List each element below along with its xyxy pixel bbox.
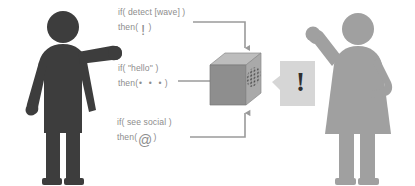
rule-condition: if( detect [wave] ) — [118, 8, 185, 17]
rule-action-suffix: ) — [148, 23, 151, 32]
speech-bubble — [272, 60, 316, 112]
speech-bubble-text: ! — [296, 69, 305, 96]
three-dots-glyph: • • • — [138, 79, 165, 88]
connector-wave-to-device — [193, 22, 245, 48]
rule-action-suffix: ) — [153, 133, 156, 142]
illustration-scene: if( detect [wave] ) then( ! ) if( "hello… — [0, 0, 415, 186]
rule-condition: if( "hello" ) — [118, 64, 168, 73]
rule-action-prefix: then( — [118, 23, 138, 32]
rule-action: then( • • • ) — [118, 79, 168, 88]
rule-see-social: if( see social ) then( @ ) — [117, 118, 172, 142]
rule-action: then( ! ) — [118, 23, 185, 32]
rule-action: then( @ ) — [117, 133, 172, 142]
rule-action-suffix: ) — [165, 79, 168, 88]
rule-action-prefix: then( — [117, 133, 137, 142]
smart-speaker-cube — [204, 52, 268, 122]
rule-detect-wave: if( detect [wave] ) then( ! ) — [118, 8, 185, 32]
rule-condition: if( see social ) — [117, 118, 172, 127]
rule-hear-hello: if( "hello" ) then( • • • ) — [118, 64, 168, 88]
rule-action-prefix: then( — [118, 79, 138, 88]
cube-front-face — [210, 65, 246, 105]
person-waving-left — [6, 0, 124, 186]
